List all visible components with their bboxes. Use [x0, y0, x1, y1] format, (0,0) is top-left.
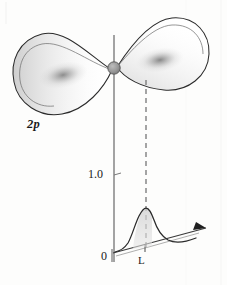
y-axis-tick-label-1: 1.0 [88, 168, 103, 180]
y-tick-mark-1 [114, 173, 121, 175]
peak-shaded-band [133, 209, 152, 249]
orbital-figure: 2p 1.0 0 L [0, 0, 227, 285]
right-lobe [117, 18, 209, 90]
orbital-label: 2p [27, 118, 40, 131]
left-lobe [13, 33, 112, 114]
figure-canvas [0, 0, 227, 285]
x-axis-line-secondary [116, 233, 199, 256]
x-axis-tick-label-L: L [138, 255, 145, 266]
y-axis-tick-label-0: 0 [101, 250, 107, 262]
nucleus-dot [108, 62, 120, 74]
